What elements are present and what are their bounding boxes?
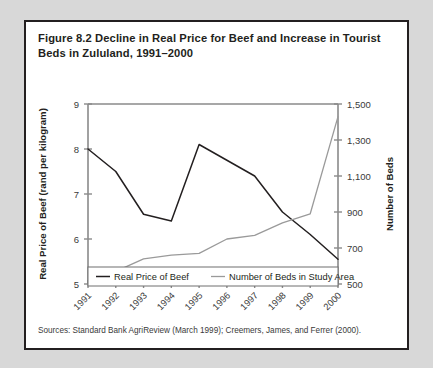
x-axis-tick-label: 1997 [238, 290, 260, 312]
chart-legend: Real Price of BeefNumber of Beds in Stud… [26, 265, 411, 291]
series-layer [88, 117, 338, 274]
chart-plot-area: 567895007009001,1001,3001,500 1991199219… [26, 22, 411, 352]
x-axis-tick-label: 1995 [183, 290, 205, 312]
right-axis-title: Number of Beds [384, 157, 395, 231]
x-axis-tick-label: 1994 [155, 290, 177, 312]
x-axis-tick-label: 1996 [211, 290, 233, 312]
legend-label-1: Real Price of Beef [114, 272, 189, 282]
right-axis-tick-label: 900 [347, 207, 363, 218]
left-axis-tick-label: 8 [74, 144, 79, 155]
left-axis-tick-label: 7 [74, 189, 79, 200]
axis-layer: 567895007009001,1001,3001,500 [74, 99, 371, 290]
right-axis-tick-label: 700 [347, 243, 363, 254]
x-axis-tick-label: 1999 [294, 290, 316, 312]
x-axis-tick-label: 1998 [266, 290, 288, 312]
x-axis-tick-label: 2000 [322, 290, 344, 312]
x-axis-tick-label: 1991 [72, 290, 94, 312]
left-axis-tick-label: 9 [74, 99, 79, 110]
x-axis-tick-label: 1992 [99, 290, 121, 312]
right-axis-tick-label: 1,500 [347, 99, 371, 110]
left-axis-tick-label: 6 [74, 234, 79, 245]
series-line-1 [88, 145, 338, 260]
figure-container: Figure 8.2 Decline in Real Price for Bee… [24, 20, 409, 350]
x-axis-tick-label: 1993 [127, 290, 149, 312]
series-line-2 [88, 117, 338, 274]
right-axis-tick-label: 1,300 [347, 135, 371, 146]
source-note: Sources: Standard Bank AgriReview (March… [38, 325, 398, 336]
x-axis-labels: 1991199219931994199519961997199819992000 [72, 290, 344, 312]
left-axis-title: Real Price of Beef (rand per kilogram) [37, 108, 48, 280]
legend-label-2: Number of Beds in Study Area [229, 272, 355, 282]
right-axis-tick-label: 1,100 [347, 171, 371, 182]
